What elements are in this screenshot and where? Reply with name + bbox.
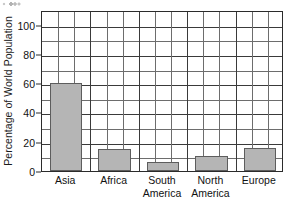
y-axis-tick-labels: 020406080100: [16, 0, 38, 205]
gridline-major-vertical: [236, 12, 237, 171]
y-axis-tick-mark: [36, 25, 41, 26]
y-axis-tick-mark: [36, 84, 41, 85]
y-axis-tick-mark: [36, 113, 41, 114]
y-axis-tick-mark: [36, 142, 41, 143]
x-axis-label: Europe: [242, 174, 276, 187]
y-axis-tick-label: 0: [29, 166, 35, 178]
y-axis-tick-label: 100: [17, 20, 35, 32]
x-axis-category-labels: AsiaAfricaSouth AmericaNorth AmericaEuro…: [41, 174, 283, 205]
bar: [147, 162, 179, 171]
y-axis-title: Percentage of World Population: [0, 0, 16, 182]
gridline-major-vertical: [90, 12, 91, 171]
bar-chart-figure: Percentage of World Population 020406080…: [0, 0, 296, 205]
gridline-minor-vertical: [155, 12, 156, 171]
y-axis-tick-label: 80: [23, 49, 35, 61]
gridline-minor-horizontal: [42, 71, 282, 72]
gridline-minor-vertical: [107, 12, 108, 171]
y-axis-tick-mark: [36, 172, 41, 173]
y-axis-tick-label: 20: [23, 137, 35, 149]
bar: [50, 83, 82, 171]
gridline-minor-horizontal: [42, 41, 282, 42]
gridline-major-horizontal: [42, 27, 282, 28]
bar: [244, 148, 276, 171]
x-axis-label: Africa: [100, 174, 127, 187]
gridline-minor-vertical: [171, 12, 172, 171]
bar: [195, 156, 227, 171]
gridline-minor-vertical: [123, 12, 124, 171]
plot-area: [41, 11, 283, 172]
gridline-minor-vertical: [203, 12, 204, 171]
y-axis-tick-mark: [36, 54, 41, 55]
y-axis-tick-label: 60: [23, 78, 35, 90]
y-axis-tick-label: 40: [23, 107, 35, 119]
gridline-major-vertical: [139, 12, 140, 171]
x-axis-label: North America: [191, 174, 230, 199]
x-axis-label: Asia: [55, 174, 75, 187]
gridline-major-horizontal: [42, 56, 282, 57]
gridline-major-vertical: [187, 12, 188, 171]
gridline-minor-vertical: [219, 12, 220, 171]
x-axis-label: South America: [143, 174, 182, 199]
y-axis-title-text: Percentage of World Population: [2, 16, 14, 166]
bar: [98, 149, 130, 171]
